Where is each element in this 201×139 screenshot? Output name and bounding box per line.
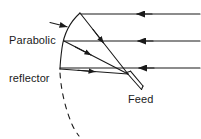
parabolic-reflector-label-line1: Parabolic [9, 34, 56, 47]
feed-horn-aperture [127, 71, 131, 72]
feed-horn-end [142, 86, 144, 90]
reflected-ray-middle-arrow [76, 47, 92, 55]
reflector-dashed-extension [60, 73, 79, 136]
reflected-ray-bottom-arrow [78, 70, 95, 71]
parabolic-reflector-label-line2: reflector [9, 72, 56, 85]
reflected-ray-top [80, 13, 128, 74]
feed-label: Feed [128, 93, 153, 106]
parabolic-reflector-figure: Parabolic reflector Feed [0, 0, 201, 139]
parabolic-reflector-label: Parabolic reflector [9, 9, 56, 109]
reflected-ray-middle [64, 41, 128, 74]
